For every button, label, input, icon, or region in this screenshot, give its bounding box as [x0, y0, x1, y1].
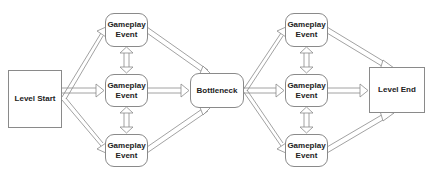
node-label: Gameplay Event — [286, 20, 327, 40]
arrow-bottleneck-to-2b — [243, 84, 284, 97]
node-gameplay-event-2b: Gameplay Event — [285, 74, 328, 107]
node-gameplay-event-1b: Gameplay Event — [105, 74, 148, 107]
node-level-end: Level End — [369, 67, 425, 113]
arrow-2c-to-level-end — [327, 111, 394, 153]
node-bottleneck: Bottleneck — [190, 73, 244, 108]
arrow-1a-to-bottleneck — [147, 27, 213, 76]
arrow-2b-to-level-end — [327, 84, 368, 97]
node-label: Bottleneck — [197, 86, 238, 96]
arrow-1c-to-bottleneck — [147, 105, 213, 153]
bi-arrow-1a-1b — [120, 47, 133, 73]
node-gameplay-event-2a: Gameplay Event — [285, 13, 328, 47]
bi-arrow-2b-2c — [300, 107, 313, 133]
arrow-start-to-event-1c — [62, 98, 106, 153]
node-label: Gameplay Event — [106, 20, 147, 40]
arrow-2a-to-level-end — [327, 27, 394, 70]
node-label: Gameplay Event — [106, 81, 147, 101]
bi-arrow-1b-1c — [120, 107, 133, 133]
node-label: Level Start — [15, 94, 56, 104]
node-gameplay-event-2c: Gameplay Event — [285, 134, 328, 167]
arrow-1b-to-bottleneck — [147, 84, 189, 97]
node-level-start: Level Start — [8, 70, 62, 128]
node-label: Gameplay Event — [286, 141, 327, 161]
arrow-bottleneck-to-2a — [243, 27, 286, 91]
node-gameplay-event-1c: Gameplay Event — [105, 134, 148, 167]
node-label: Gameplay Event — [106, 141, 147, 161]
arrow-bottleneck-to-2c — [243, 90, 286, 153]
node-gameplay-event-1a: Gameplay Event — [105, 13, 148, 47]
node-label: Level End — [378, 85, 416, 95]
node-label: Gameplay Event — [286, 81, 327, 101]
bi-arrow-2a-2b — [300, 47, 313, 73]
